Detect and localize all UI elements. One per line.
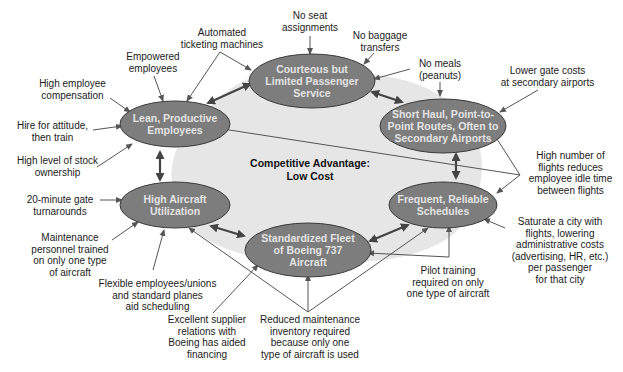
node-label-routes: Short Haul, Point-to- Point Routes, Ofte…	[378, 108, 508, 144]
factor-compensation: High employee compensation	[30, 78, 115, 101]
factor-idle-time: High number of flights reduces employee …	[518, 150, 623, 196]
node-label-service: Courteous but Limited Passenger Service	[252, 63, 372, 99]
factor-maint-personnel: Maintenance personnel trained on only on…	[20, 232, 120, 278]
factor-ticketing: Automated ticketing machines	[172, 27, 272, 50]
node-label-schedules: Frequent, Reliable Schedules	[388, 193, 498, 217]
factor-pilot: Pilot training required on only one type…	[398, 265, 498, 300]
center-title: Competitive Advantage: Low Cost	[240, 157, 380, 182]
factor-flexible: Flexible employees/unions and standard p…	[90, 278, 225, 313]
factor-no-baggage: No baggage transfers	[340, 30, 420, 53]
factor-hire: Hire for attitude, then train	[10, 120, 95, 143]
node-label-utilization: High Aircraft Utilization	[120, 193, 230, 217]
factor-maint-inventory: Reduced maintenance inventory required b…	[250, 314, 370, 360]
factor-no-meals: No meals (peanuts)	[405, 58, 475, 81]
node-label-fleet: Standardized Fleet of Boeing 737 Aircraf…	[248, 232, 368, 268]
factor-gate-costs: Lower gate costs at secondary airports	[485, 65, 610, 88]
factor-supplier: Excellent supplier relations with Boeing…	[162, 314, 252, 360]
factor-stock: High level of stock ownership	[10, 155, 105, 178]
factor-no-seat: No seat assignments	[270, 10, 350, 33]
factor-gate-turn: 20-minute gate turnarounds	[15, 194, 105, 217]
factor-empowered: Empowered employees	[118, 51, 188, 74]
factor-saturate: Saturate a city with flights, lowering a…	[500, 216, 620, 285]
low-cost-activity-map: Courteous but Limited Passenger Service …	[0, 0, 623, 372]
node-label-employees: Lean, Productive Employees	[120, 112, 230, 136]
